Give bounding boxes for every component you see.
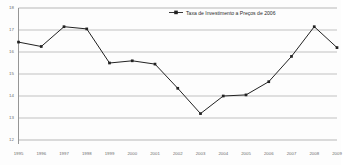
x-axis-tick-label: 2004 [212, 151, 234, 156]
x-axis-tick-label: 1996 [30, 151, 52, 156]
x-axis-tick-label: 2003 [190, 151, 212, 156]
data-point-marker [154, 63, 157, 66]
y-axis-tick-label: 13 [2, 115, 14, 120]
x-axis-tick-label: 1998 [76, 151, 98, 156]
x-axis-tick-label: 2007 [281, 151, 303, 156]
x-axis-tick-label: 2002 [167, 151, 189, 156]
x-axis-tick-label: 1997 [53, 151, 75, 156]
y-axis-tick-label: 18 [2, 5, 14, 10]
series-line [19, 27, 338, 114]
x-axis-tick-label: 1995 [8, 151, 30, 156]
data-point-marker [176, 87, 179, 90]
y-axis-tick-label: 15 [2, 71, 14, 76]
data-series-group [17, 25, 338, 115]
data-point-marker [267, 80, 270, 83]
x-axis-tick-label: 1999 [99, 151, 121, 156]
x-axis-tick-label: 2000 [121, 151, 143, 156]
x-axis-tick-label: 2006 [258, 151, 280, 156]
x-axis-tick-label: 2009 [326, 151, 347, 156]
gridlines [19, 8, 338, 140]
data-point-marker [108, 62, 111, 65]
data-point-marker [290, 55, 293, 58]
data-point-marker [85, 28, 88, 31]
legend-label: Taxa de Investimento a Preços de 2006 [186, 10, 275, 16]
x-axis-tick-label: 2005 [235, 151, 257, 156]
data-point-marker [17, 41, 20, 44]
data-point-marker [131, 59, 134, 62]
legend-line-marker-icon [168, 9, 184, 16]
data-point-marker [245, 94, 248, 97]
y-axis-tick-label: 17 [2, 27, 14, 32]
x-axis-tick-label: 2008 [303, 151, 325, 156]
y-axis-tick-label: 16 [2, 49, 14, 54]
data-point-marker [199, 112, 202, 115]
data-point-marker [222, 95, 225, 98]
data-point-marker [63, 25, 66, 28]
data-point-marker [40, 45, 43, 48]
y-axis-tick-label: 14 [2, 93, 14, 98]
data-point-marker [313, 25, 316, 28]
y-axis-tick-label: 12 [2, 137, 14, 142]
data-point-marker [336, 46, 339, 49]
x-axis-tick-label: 2001 [144, 151, 166, 156]
chart-legend: Taxa de Investimento a Preços de 2006 [168, 9, 275, 16]
